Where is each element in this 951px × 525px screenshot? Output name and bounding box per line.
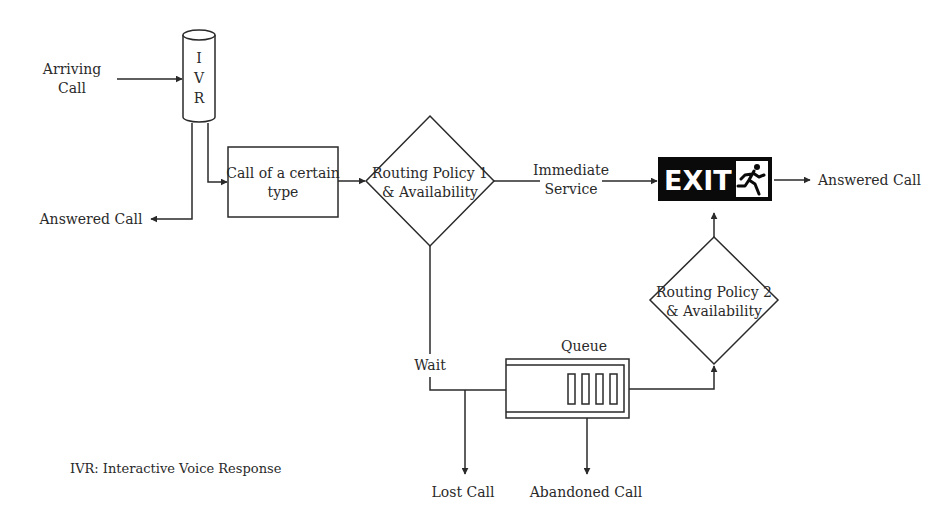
- lost-call-label: Lost Call: [432, 484, 496, 500]
- immediate-service-label-1: Immediate: [533, 162, 609, 178]
- arriving-call-node: Arriving Call: [42, 61, 101, 96]
- immediate-service-label-2: Service: [544, 181, 597, 197]
- wait-label: Wait: [414, 357, 446, 373]
- ivr-legend: IVR: Interactive Voice Response: [70, 461, 282, 476]
- abandoned-call-label: Abandoned Call: [529, 484, 643, 500]
- edge-wait-to-queue: [430, 377, 506, 390]
- call-flow-diagram: Arriving Call I V R Answered Call Call o…: [0, 0, 951, 525]
- ivr-top: [183, 30, 215, 40]
- queue-slot: [568, 374, 575, 404]
- call-type-label-2: type: [268, 184, 299, 200]
- call-type-label-1: Call of a certain: [226, 165, 340, 181]
- exit-sign: EXIT: [658, 157, 772, 201]
- routing2-shape: [650, 237, 778, 364]
- ivr-letter-v: V: [193, 70, 205, 86]
- call-type-rect: [228, 147, 338, 217]
- ivr-cylinder: I V R: [183, 30, 215, 122]
- queue-label: Queue: [561, 338, 607, 354]
- ivr-answered-call-label: Answered Call: [39, 211, 144, 227]
- arriving-call-label-1: Arriving: [42, 61, 101, 77]
- routing-policy-1-diamond: Routing Policy 1 & Availability: [366, 116, 494, 246]
- queue-box: [506, 359, 629, 418]
- arrow-ivr-to-answered: [151, 123, 192, 219]
- arrow-ivr-to-calltype: [208, 123, 227, 182]
- queue-slot: [582, 374, 589, 404]
- ivr-letter-i: I: [196, 50, 202, 66]
- routing2-label-2: & Availability: [666, 303, 762, 319]
- routing-policy-2-diamond: Routing Policy 2 & Availability: [650, 237, 778, 364]
- queue-slot: [596, 374, 603, 404]
- routing1-label-1: Routing Policy 1: [372, 165, 488, 181]
- arrow-queue-to-routing2: [629, 366, 714, 389]
- ivr-letter-r: R: [194, 90, 205, 106]
- routing1-label-2: & Availability: [382, 184, 478, 200]
- running-man-icon: [736, 161, 768, 197]
- queue-slot: [610, 374, 617, 404]
- exit-answered-call-label: Answered Call: [817, 172, 922, 188]
- call-type-box: Call of a certain type: [226, 147, 340, 217]
- routing2-label-1: Routing Policy 2: [656, 284, 772, 300]
- routing1-shape: [366, 116, 494, 246]
- exit-sign-text: EXIT: [664, 165, 732, 196]
- arriving-call-label-2: Call: [58, 80, 87, 96]
